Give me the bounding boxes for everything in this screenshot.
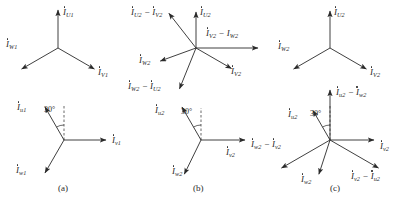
phasor-label-I_V2: IV2 <box>231 67 241 76</box>
phasor-label-I_u1: Iu1 <box>17 103 26 112</box>
phasor-diagram-figure: IU1IV1IW1Iu1Iv1Iw130°IU2IV2IW2IU2 − IV2I… <box>0 0 407 200</box>
phasor-arrow-I_W2_minus_I_U2 <box>180 48 196 89</box>
phasor-vector-canvas <box>0 0 407 200</box>
phasor-label-I_U2: IU2 <box>334 8 345 17</box>
angle-arc <box>323 125 331 127</box>
panel-caption: (a) <box>58 184 68 193</box>
angle-label: 30° <box>181 108 192 116</box>
phasor-arrow-I_w2 <box>184 140 201 174</box>
phasor-arrow-I_v2_minus_I_u2 <box>330 140 378 168</box>
panel-caption: (c) <box>330 184 340 193</box>
phasor-label-I_v2: Iv2 <box>226 148 235 157</box>
phasor-label-I_W2_minus_I_U2: IW2 − IU2 <box>128 82 161 91</box>
phasor-arrow-I_w1 <box>45 140 64 173</box>
phasor-label-I_U2_minus_I_V2: IU2 − IV2 <box>131 8 162 17</box>
phasor-label-I_u2_minus_I_w2: Iu2 − Iw2 <box>336 88 366 97</box>
angle-arc <box>194 125 202 127</box>
phasor-label-I_U1: IU1 <box>63 8 74 17</box>
phasor-arrow-I_U2_minus_I_V2 <box>169 13 196 48</box>
phasor-arrow-I_V2 <box>196 48 232 69</box>
phasor-arrow-I_W2 <box>294 48 330 69</box>
phasor-label-I_v2_minus_I_u2: Iv2 − Iu2 <box>351 172 380 181</box>
phasor-arrow-I_W1 <box>22 48 58 69</box>
phasor-arrow-I_V2 <box>330 48 366 69</box>
phasor-label-I_w2_minus_I_v2: Iw2 − Iv2 <box>251 140 281 149</box>
phasor-label-I_W2: IW2 <box>139 56 150 65</box>
angle-label: 30° <box>44 106 55 114</box>
phasor-label-I_w2: Iw2 <box>172 167 182 176</box>
phasor-label-I_V1: IV1 <box>98 68 108 77</box>
angle-arc <box>57 125 65 127</box>
phasor-label-I_W1: IW1 <box>6 40 17 49</box>
phasor-arrow-I_V1 <box>58 48 94 69</box>
phasor-label-I_u2: Iu2 <box>155 106 164 115</box>
phasor-label-I_U2: IU2 <box>200 8 211 17</box>
phasor-arrow-I_W2 <box>160 48 196 61</box>
phasor-label-I_u2: Iu2 <box>288 110 297 119</box>
phasor-label-I_w2: Iw2 <box>301 175 311 184</box>
phasor-label-I_v1: Iv1 <box>112 136 121 145</box>
angle-label: 30° <box>310 110 321 118</box>
phasor-label-I_w1: Iw1 <box>16 166 26 175</box>
phasor-label-I_V2: IV2 <box>370 68 380 77</box>
panel-caption: (b) <box>193 184 204 193</box>
phasor-label-I_W2: IW2 <box>278 42 289 51</box>
phasor-label-I_V2_minus_I_W2: IV2 − IW2 <box>206 29 238 38</box>
phasor-label-I_v2: Iv2 <box>380 142 389 151</box>
